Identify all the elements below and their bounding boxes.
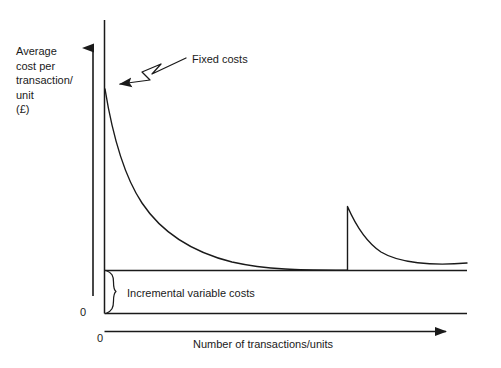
x-axis-origin-tick-label: 0 — [97, 331, 103, 345]
incremental-variable-costs-annotation-label: Incremental variable costs — [127, 286, 255, 300]
y-axis-title: Average cost per transaction/ unit (£) — [16, 44, 94, 117]
x-axis-title: Number of transactions/units — [193, 337, 333, 351]
fixed-cost-curve — [105, 89, 467, 270]
y-axis-origin-tick-label: 0 — [80, 305, 86, 319]
incremental-variable-costs-brace — [106, 271, 116, 314]
fixed-costs-annotation-label: Fixed costs — [192, 52, 248, 66]
figure-root: Average cost per transaction/ unit (£) N… — [0, 0, 501, 368]
fixed-costs-leader-zigzag — [120, 58, 186, 84]
